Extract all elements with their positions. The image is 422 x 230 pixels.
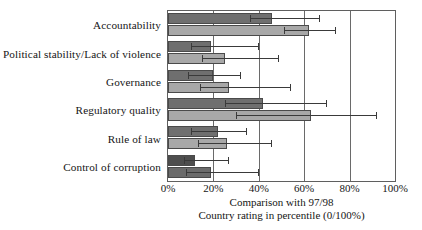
- x-tick-label-100: 100%: [382, 182, 408, 194]
- error-bar-cap: [376, 112, 377, 119]
- error-bar: [191, 131, 248, 132]
- error-bar-cap: [278, 55, 279, 62]
- error-bar: [225, 103, 327, 104]
- error-bar-cap: [258, 43, 259, 50]
- bar-group: [168, 96, 395, 124]
- error-bar: [250, 18, 320, 19]
- bar-group: [168, 153, 395, 181]
- bar-chart-figure: AccountabilityPolitical stability/Lack o…: [0, 0, 422, 230]
- error-bar-cap: [326, 100, 327, 107]
- error-bar-cap: [335, 27, 336, 34]
- error-bar: [191, 46, 259, 47]
- category-label-0: Accountability: [93, 19, 161, 31]
- category-label-2: Governance: [106, 76, 161, 88]
- error-bar-cap: [240, 72, 241, 79]
- caption-line-2: Country rating in percentile (0/100%): [167, 209, 396, 222]
- error-bar-cap: [271, 140, 272, 147]
- error-bar-cap: [191, 128, 192, 135]
- category-label-4: Rule of law: [108, 133, 161, 145]
- error-bar-cap: [246, 128, 247, 135]
- x-tick-label-40: 40%: [249, 182, 269, 194]
- x-tick-label-80: 80%: [340, 182, 360, 194]
- error-bar-cap: [198, 140, 199, 147]
- error-bar: [198, 143, 273, 144]
- bar-group: [168, 68, 395, 96]
- error-bar-cap: [184, 157, 185, 164]
- error-bar: [200, 87, 291, 88]
- error-bar-cap: [191, 43, 192, 50]
- error-bar: [236, 115, 377, 116]
- error-bar-cap: [202, 55, 203, 62]
- x-tick-label-60: 60%: [294, 182, 314, 194]
- error-bar-cap: [188, 72, 189, 79]
- x-tick-label-0: 0%: [161, 182, 176, 194]
- error-bar: [184, 160, 229, 161]
- caption-line-1: Comparison with 97/98: [167, 196, 396, 209]
- bar-group: [168, 124, 395, 152]
- error-bar-cap: [200, 84, 201, 91]
- error-bar: [186, 172, 259, 173]
- error-bar-cap: [284, 27, 285, 34]
- x-tick-label-20: 20%: [203, 182, 223, 194]
- axis-caption: Comparison with 97/98 Country rating in …: [167, 196, 396, 221]
- category-label-1: Political stability/Lack of violence: [3, 48, 161, 60]
- plot-area: [167, 10, 396, 182]
- bar-group: [168, 39, 395, 67]
- error-bar-cap: [250, 15, 251, 22]
- error-bar-cap: [228, 157, 229, 164]
- category-axis-labels: AccountabilityPolitical stability/Lack o…: [0, 12, 165, 182]
- error-bar-cap: [236, 112, 237, 119]
- error-bar-cap: [319, 15, 320, 22]
- bar-group: [168, 11, 395, 39]
- error-bar: [284, 30, 336, 31]
- error-bar-cap: [186, 169, 187, 176]
- error-bar: [202, 58, 279, 59]
- error-bar-cap: [258, 169, 259, 176]
- category-label-5: Control of corruption: [63, 161, 161, 173]
- error-bar-cap: [290, 84, 291, 91]
- category-label-3: Regulatory quality: [76, 104, 161, 116]
- error-bar: [188, 75, 240, 76]
- error-bar-cap: [225, 100, 226, 107]
